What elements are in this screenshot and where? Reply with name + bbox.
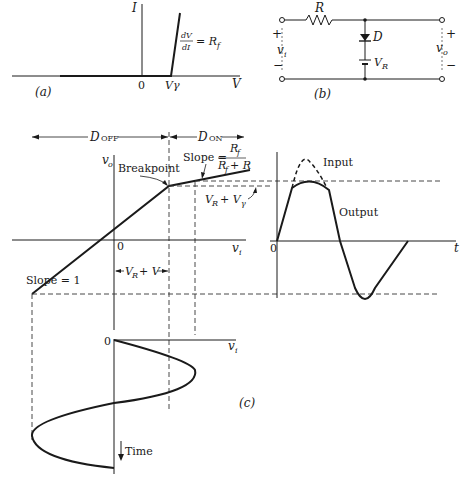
lower-origin-label: 0: [104, 335, 111, 348]
b-resistor-label: R: [314, 1, 324, 15]
c-d-off-suffix: OFF: [101, 134, 119, 143]
c-origin-label: 0: [117, 240, 124, 253]
c-vr-sub: R: [211, 199, 218, 208]
c-vo-sub: o: [108, 160, 113, 169]
c-d-off-label: D: [89, 130, 100, 144]
wave-input-label: Input: [323, 156, 354, 169]
c-panel-label: (c): [239, 396, 255, 410]
b-resistor-symbol: [306, 15, 332, 25]
a-i-label: I: [131, 1, 137, 15]
c-slope-den-rest: + R: [230, 159, 251, 172]
wave-output-curve: [277, 181, 408, 299]
b-battery-sub: R: [381, 62, 388, 71]
b-panel-label: (b): [314, 87, 331, 101]
panel-c-input-waveform: 0 v i Time (c): [32, 335, 255, 474]
a-threshold-label: Vγ: [165, 79, 180, 92]
a-v-label: V: [232, 77, 242, 91]
diode-clipper-figure: I V 0 Vγ dV dI = R f (a) R D V R + −: [0, 0, 468, 483]
b-input-bottom-terminal: [280, 77, 285, 82]
b-diode-symbol: [360, 34, 370, 41]
c-d-on-label: D: [197, 130, 208, 144]
wave-t-label: t: [454, 241, 459, 255]
a-slope-eq: = R: [196, 35, 217, 48]
b-output-label: v: [436, 41, 443, 55]
b-output-sub: o: [443, 48, 448, 57]
a-slope-den: dI: [182, 43, 191, 52]
c-breakpoint-label: Breakpoint: [118, 162, 180, 175]
panel-b-clipper-circuit: R D V R + − v i + − v o (b): [272, 1, 456, 101]
c-offset-plus: + V: [139, 265, 161, 278]
panel-a-diode-iv-curve: I V 0 Vγ dV dI = R f (a): [12, 1, 242, 99]
b-input-label: v: [277, 43, 284, 57]
c-vi-sub: i: [239, 248, 242, 257]
b-output-top-terminal: [440, 18, 445, 23]
panel-c-transfer-characteristic: D OFF D ON v o v i 0 Breakpoint Slope = …: [12, 130, 440, 440]
panel-c-output-waveform: Input Output 0 t: [270, 152, 459, 299]
b-input-minus: −: [273, 58, 283, 72]
c-vi-label: v: [232, 241, 239, 255]
a-slope-num: dV: [181, 31, 193, 40]
lower-vi-label: v: [228, 339, 235, 353]
b-output-plus: +: [446, 27, 456, 41]
b-output-minus: −: [446, 58, 456, 72]
c-slope-one-label: Slope = 1: [26, 274, 80, 287]
a-panel-label: (a): [35, 85, 52, 99]
c-vg-sub: γ: [241, 199, 246, 208]
wave-output-label: Output: [339, 206, 379, 219]
b-output-bottom-terminal: [440, 77, 445, 82]
time-label: Time: [125, 445, 153, 458]
c-slope-num-sub: f: [236, 148, 242, 157]
c-d-on-suffix: ON: [209, 134, 223, 143]
a-slope-sub: f: [216, 41, 222, 50]
b-input-sub: i: [284, 50, 287, 59]
a-iv-curve: [60, 13, 180, 76]
b-input-top-terminal: [280, 18, 285, 23]
b-input-plus: +: [272, 27, 282, 41]
c-offset-vr-sub: R: [131, 271, 138, 280]
a-origin-label: 0: [138, 79, 145, 92]
c-vr-plus: + V: [220, 193, 242, 206]
wave-origin-label: 0: [270, 242, 277, 255]
b-diode-label: D: [372, 30, 383, 44]
lower-vi-sub: i: [235, 346, 238, 355]
